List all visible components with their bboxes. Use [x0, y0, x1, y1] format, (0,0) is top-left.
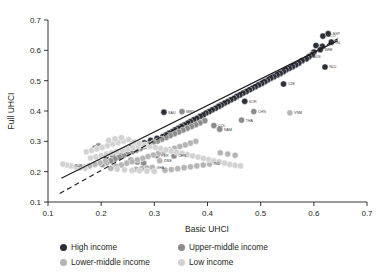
- chart-legend: High incomeUpper-middle incomeLower-midd…: [60, 240, 350, 270]
- data-point: [320, 33, 326, 39]
- y-tick-label: 0.2: [30, 168, 42, 177]
- data-point-label: NLD: [329, 65, 337, 69]
- y-tick-label: 0.4: [30, 107, 42, 116]
- data-point-label: ZWE: [164, 159, 173, 163]
- y-tick-label: 0.3: [30, 137, 42, 146]
- data-point: [108, 165, 114, 171]
- data-point: [106, 137, 112, 143]
- data-point-label: CHN: [258, 110, 266, 114]
- data-point: [157, 158, 163, 164]
- data-point-label: CHN: [178, 154, 186, 158]
- data-point-label: TUR: [75, 164, 83, 168]
- data-point: [187, 164, 193, 170]
- legend-label: Low income: [189, 258, 233, 266]
- data-point-label: IND: [214, 162, 221, 166]
- data-point-label: SAU: [168, 111, 176, 115]
- trend-lines-layer: [60, 39, 338, 194]
- legend-item: Low income: [178, 258, 328, 266]
- data-point: [280, 81, 286, 87]
- data-point: [136, 168, 142, 174]
- legend-swatch-icon: [178, 244, 185, 251]
- x-tick-label: 0.7: [361, 209, 373, 218]
- scatter-chart: 0.10.20.30.40.50.60.7 0.10.20.30.40.50.6…: [0, 0, 381, 275]
- data-point-label: SWE: [324, 48, 333, 52]
- data-point-label: THA: [246, 119, 254, 123]
- data-point-label: GHA: [156, 166, 164, 170]
- data-point: [322, 64, 328, 70]
- y-tick-label: 0.6: [30, 46, 42, 55]
- data-point-label: MCO: [327, 34, 336, 38]
- data-point: [238, 117, 244, 123]
- data-point: [242, 98, 248, 104]
- x-tick-label: 0.2: [96, 209, 108, 218]
- y-tick-label: 0.7: [30, 16, 42, 25]
- data-point-label: NAM: [224, 128, 232, 132]
- legend-swatch-icon: [60, 259, 67, 266]
- reference-line: [60, 39, 338, 194]
- data-point: [129, 167, 135, 173]
- data-point: [232, 152, 238, 158]
- data-point-label: ISL: [336, 41, 341, 45]
- data-point: [175, 166, 181, 172]
- legend-item: High income: [60, 243, 178, 251]
- x-tick-label: 0.1: [42, 209, 54, 218]
- data-point: [112, 136, 118, 142]
- data-point: [225, 151, 231, 157]
- data-point: [181, 165, 187, 171]
- data-point: [118, 135, 124, 141]
- x-tick-label: 0.4: [202, 209, 214, 218]
- y-tick-label: 0.1: [30, 198, 42, 207]
- y-axis-title: Full UHCI: [6, 93, 16, 130]
- legend-label: High income: [71, 243, 117, 251]
- y-tick-label: 0.5: [30, 77, 42, 86]
- data-point: [179, 109, 185, 115]
- x-axis-ticks: 0.10.20.30.40.50.60.7: [42, 202, 373, 218]
- data-point: [114, 166, 120, 172]
- x-tick-label: 0.5: [255, 209, 267, 218]
- data-point: [144, 168, 150, 174]
- data-point: [211, 122, 217, 128]
- data-point: [168, 166, 174, 172]
- data-point: [217, 150, 223, 156]
- data-point-label: VNM: [294, 111, 302, 115]
- data-point-label: AUS: [313, 55, 321, 59]
- y-axis-ticks: 0.10.20.30.40.50.60.7: [30, 16, 48, 207]
- legend-swatch-icon: [60, 244, 67, 251]
- x-axis-title: Basic UHCI: [185, 224, 229, 234]
- legend-item: Lower-middle income: [60, 258, 178, 266]
- legend-label: Upper-middle income: [189, 243, 268, 251]
- data-points-layer: [60, 31, 335, 175]
- x-tick-label: 0.6: [308, 209, 320, 218]
- data-point-label: MNG: [186, 110, 195, 114]
- data-point: [287, 110, 293, 116]
- legend-swatch-icon: [178, 259, 185, 266]
- data-point: [161, 109, 167, 115]
- data-point-label: CZE: [288, 82, 296, 86]
- data-point: [237, 163, 243, 169]
- x-tick-label: 0.3: [149, 209, 161, 218]
- data-point: [60, 161, 66, 167]
- legend-label: Lower-middle income: [71, 258, 150, 266]
- data-point-label: PER: [161, 154, 169, 158]
- data-point: [251, 109, 257, 115]
- data-point: [121, 167, 127, 173]
- data-point: [194, 163, 200, 169]
- data-point-label: KOR: [249, 100, 257, 104]
- legend-item: Upper-middle income: [178, 243, 328, 251]
- data-point: [200, 162, 206, 168]
